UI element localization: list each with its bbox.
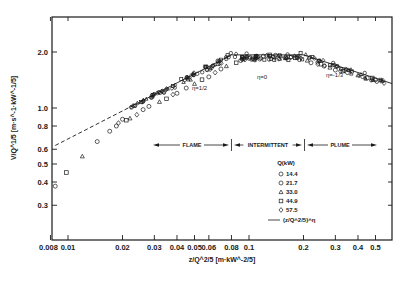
circle-marker (141, 108, 145, 112)
x-tick-label: 0.5 (370, 243, 380, 252)
circle-marker (229, 51, 232, 54)
legend-label: 14.4 (286, 171, 298, 177)
octagon-marker (363, 71, 366, 74)
y-tick-label: 1.0 (38, 104, 48, 113)
circle-marker (309, 61, 313, 65)
circle-marker (200, 71, 203, 74)
diamond-marker (116, 121, 120, 126)
circle-marker (175, 91, 179, 95)
y-tick-label: 2.0 (38, 48, 48, 57)
triangle-marker (279, 190, 283, 194)
legend-label: 44.9 (286, 198, 298, 204)
octagon-marker (184, 86, 188, 90)
fit-line-eta-half-dashed (55, 102, 140, 146)
square-marker (299, 51, 302, 54)
triangle-marker (157, 100, 161, 104)
arrow-left-icon (307, 143, 313, 147)
x-tick-label: 0.06 (202, 243, 217, 252)
arrow-right-icon (223, 143, 229, 147)
x-tick-label: 0.2 (298, 243, 308, 252)
triangle-marker (305, 59, 309, 63)
y-axis-label: V/Q^1/5 [m·s^-1·kW^-1/5] (10, 76, 18, 160)
x-tick-label: 0.08 (224, 243, 239, 252)
eta-annotation: η=1/2 (192, 85, 208, 91)
diamond-marker (213, 70, 217, 75)
circle-marker (108, 129, 112, 133)
plot-frame (52, 17, 392, 240)
triangle-marker (350, 72, 353, 75)
arrow-left-icon (153, 143, 159, 147)
y-tick-label: 0.3 (38, 201, 48, 210)
legend-title: Q(kW) (277, 160, 295, 166)
plume-velocity-chart: 0.0080.010.020.030.040.050.060.080.10.20… (0, 0, 413, 281)
legend-label: 21.7 (286, 180, 298, 186)
circle-marker (53, 184, 57, 188)
legend: Q(kW)14.421.733.044.957.5(z/Q^2/5)^η (268, 160, 316, 223)
octagon-marker (219, 67, 223, 71)
square-marker (200, 78, 204, 82)
octagon-marker (233, 55, 236, 58)
x-tick-label: 0.05 (187, 243, 202, 252)
region-label: INTERMITTENT (248, 142, 289, 148)
x-tick-label: 0.4 (353, 243, 364, 252)
x-tick-label: 0.01 (61, 243, 76, 252)
eta-annotation: η=0 (257, 74, 268, 80)
x-tick-label: 0.03 (147, 243, 162, 252)
regime-regions: FLAMEINTERMITTENTPLUME (153, 139, 377, 151)
circle-marker (279, 172, 283, 176)
arrow-left-icon (234, 143, 240, 147)
triangle-marker (80, 154, 84, 158)
x-tick-label: 0.3 (330, 243, 340, 252)
region-label: FLAME (183, 142, 202, 148)
eta-annotation: η=-1/3 (326, 72, 344, 78)
square-marker (165, 97, 169, 101)
square-marker (65, 171, 69, 175)
square-marker (234, 61, 238, 65)
triangle-marker (224, 64, 228, 68)
circle-marker (207, 75, 211, 79)
legend-label: 33.0 (286, 189, 298, 195)
square-marker (263, 58, 266, 61)
square-marker (279, 199, 283, 203)
arrow-right-icon (296, 143, 302, 147)
octagon-marker (120, 117, 124, 121)
fit-lines (55, 55, 392, 146)
diamond-marker (279, 208, 283, 213)
y-tick-label: 0.5 (38, 160, 48, 169)
x-axis-ticks: 0.0080.010.020.030.040.050.060.080.10.20… (39, 17, 381, 252)
legend-label: (z/Q^2/5)^η (283, 217, 316, 223)
circle-marker (95, 140, 99, 144)
arrow-right-icon (371, 143, 377, 147)
octagon-marker (279, 181, 283, 185)
y-tick-label: 0.4 (38, 178, 49, 187)
diamond-marker (171, 92, 175, 97)
x-tick-label: 0.1 (244, 243, 254, 252)
y-tick-label: 0.6 (38, 145, 48, 154)
diamond-marker (135, 112, 139, 117)
triangle-marker (128, 116, 132, 120)
legend-label: 57.5 (286, 207, 298, 213)
y-tick-label: 0.8 (38, 122, 48, 131)
x-axis-label: z/Q^2/5 [m·kW^-2/5] (189, 256, 256, 264)
x-tick-label: 0.02 (115, 243, 130, 252)
region-label: PLUME (330, 142, 350, 148)
octagon-marker (147, 104, 151, 108)
x-tick-label: 0.008 (39, 243, 58, 252)
x-tick-label: 0.04 (170, 243, 185, 252)
